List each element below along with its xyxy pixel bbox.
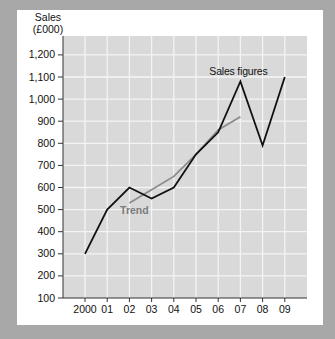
x-tick-label: 07 <box>235 303 247 315</box>
y-tick-label: 100 <box>37 292 55 304</box>
y-tick-label: 1,100 <box>29 71 55 83</box>
y-tick-label: 400 <box>37 225 55 237</box>
x-tick-label: 08 <box>257 303 269 315</box>
y-tick-label: 1,000 <box>29 93 55 105</box>
x-tick-label: 03 <box>146 303 158 315</box>
y-tick-label: 1,200 <box>29 48 55 60</box>
x-tick-label: 02 <box>124 303 136 315</box>
y-axis-title: (£000) <box>33 23 63 35</box>
y-tick-label: 900 <box>37 115 55 127</box>
y-tick-label: 300 <box>37 247 55 259</box>
y-tick-label: 800 <box>37 137 55 149</box>
sales-figures-label: Sales figures <box>209 65 267 77</box>
plot-area <box>63 36 307 298</box>
y-tick-label: 500 <box>37 203 55 215</box>
x-tick-label: 04 <box>168 303 180 315</box>
x-tick-label: 06 <box>212 303 224 315</box>
y-tick-label: 200 <box>37 269 55 281</box>
y-tick-label: 700 <box>37 159 55 171</box>
x-tick-label: 05 <box>190 303 202 315</box>
y-axis-title: Sales <box>35 11 61 23</box>
x-tick-label: 2000 <box>73 303 97 315</box>
line-chart: 1002003004005006007008009001,0001,1001,2… <box>0 0 335 339</box>
y-tick-label: 600 <box>37 181 55 193</box>
trend-label: Trend <box>120 204 149 216</box>
x-tick-label: 01 <box>101 303 113 315</box>
x-tick-label: 09 <box>279 303 291 315</box>
